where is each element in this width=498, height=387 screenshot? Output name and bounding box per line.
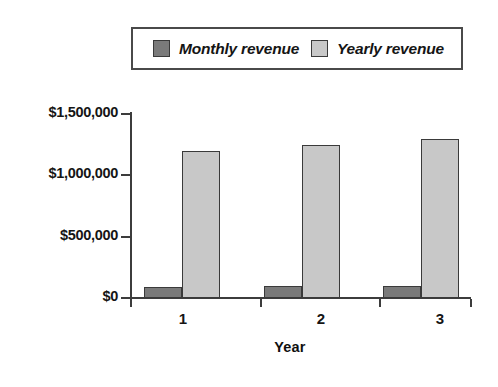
x-axis-tick	[260, 299, 262, 307]
y-axis-tick-label: $1,500,000	[48, 104, 118, 120]
x-axis-tick	[470, 299, 472, 307]
x-axis-tick-label: 1	[153, 310, 213, 327]
bars-plot-area	[130, 114, 471, 298]
y-axis-tick-label: $1,000,000	[48, 165, 118, 181]
bar-monthly-revenue-year-1	[144, 287, 182, 298]
legend-entry-yearly-revenue[interactable]: Yearly revenue	[311, 40, 444, 58]
revenue-bar-chart: Monthly revenue Yearly revenue $0$500,00…	[0, 0, 498, 387]
x-axis-tick	[130, 299, 132, 307]
legend-swatch-icon-monthly	[153, 40, 170, 57]
y-axis-tick-label: $0	[102, 288, 118, 304]
x-axis-tick-label: 3	[410, 310, 470, 327]
y-axis-tick-label: $500,000	[60, 227, 118, 243]
legend-label-yearly: Yearly revenue	[337, 40, 444, 58]
legend-swatch-icon-yearly	[311, 40, 328, 57]
x-axis-tick-label: 2	[291, 310, 351, 327]
legend-entry-monthly-revenue[interactable]: Monthly revenue	[153, 40, 299, 58]
x-axis-title: Year	[0, 339, 498, 355]
legend-label-monthly: Monthly revenue	[179, 40, 299, 58]
bar-monthly-revenue-year-2	[264, 286, 302, 298]
bar-yearly-revenue-year-3	[421, 139, 459, 298]
x-axis-tick	[379, 299, 381, 307]
bar-monthly-revenue-year-3	[383, 286, 421, 298]
bar-yearly-revenue-year-2	[302, 145, 340, 298]
y-axis-tick-labels: $0$500,000$1,000,000$1,500,000	[0, 0, 118, 387]
x-axis-title-text: Year	[274, 339, 305, 355]
chart-legend: Monthly revenue Yearly revenue	[131, 27, 463, 70]
bar-yearly-revenue-year-1	[182, 151, 220, 298]
